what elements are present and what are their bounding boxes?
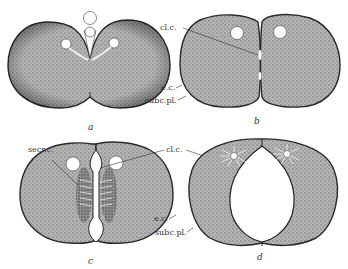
embryo-cleavage-figure: a cl.c. e.c. subc.pl. b s bbox=[0, 0, 348, 269]
cell-b-left bbox=[180, 15, 260, 107]
panel-a: a bbox=[8, 12, 170, 133]
panel-label-b: b bbox=[254, 116, 260, 126]
polar-body-lower bbox=[85, 27, 95, 37]
panel-b: cl.c. e.c. subc.pl. b bbox=[145, 15, 340, 126]
label-cl-c-cd: cl.c. bbox=[166, 145, 183, 154]
label-e-c-c: e.c. bbox=[154, 214, 168, 223]
panel-label-c: c bbox=[88, 256, 93, 266]
polar-body-top bbox=[84, 12, 97, 25]
label-e-c-b: e.c. bbox=[161, 83, 175, 92]
panel-label-d: d bbox=[257, 252, 263, 262]
nucleus-b-left bbox=[231, 27, 244, 40]
nucleus-b-right bbox=[274, 26, 287, 39]
label-secr-c: secr.c. bbox=[28, 145, 54, 154]
panel-d: d bbox=[189, 139, 337, 262]
label-cl-c-b: cl.c. bbox=[160, 23, 177, 32]
nucleus-c-right bbox=[109, 156, 123, 170]
cleavage-cavity-b bbox=[258, 50, 261, 60]
panel-label-a: a bbox=[88, 122, 93, 132]
nucleus-c-left bbox=[66, 157, 80, 171]
cell-b-right bbox=[261, 15, 341, 108]
label-subc-pl-b: subc.pl. bbox=[145, 96, 177, 105]
label-subc-pl-c: subc.pl. bbox=[155, 228, 187, 237]
